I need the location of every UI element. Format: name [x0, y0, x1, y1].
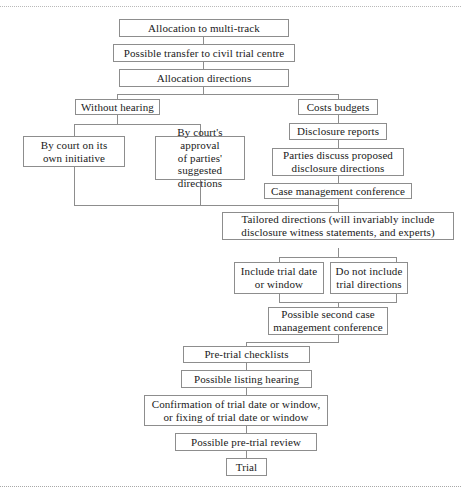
node-do-not-include-trial-directions[interactable]: Do not include trial directions [330, 262, 408, 294]
node-case-management-conference[interactable]: Case management conference [264, 183, 412, 199]
connector-bend-bar [246, 342, 339, 343]
node-possible-pre-trial-review[interactable]: Possible pre-trial review [175, 433, 317, 451]
node-label-line-1: By court's approval [156, 126, 244, 152]
node-by-courts-approval-of-parties-suggested-directions[interactable]: By court's approval of parties' suggeste… [155, 136, 245, 180]
connector-parties-to-cmc [338, 176, 339, 183]
connector-allocation-to-transfer [203, 37, 204, 44]
connector-directions-down [203, 87, 204, 94]
flowchart-page: Allocation to multi-track Possible trans… [0, 0, 461, 494]
node-label: Case management conference [267, 185, 409, 198]
node-label: Possible transfer to civil trial centre [120, 47, 289, 60]
connector-include-down [279, 294, 280, 302]
node-possible-second-case-management-conference[interactable]: Possible second case management conferen… [268, 307, 388, 335]
connector-join-bar [74, 205, 339, 206]
node-label: Allocation to multi-track [144, 22, 264, 35]
node-label: Disclosure reports [293, 125, 383, 138]
node-label-line-2: disclosure witness statements, and exper… [237, 226, 438, 239]
node-label: Possible pre-trial review [187, 436, 305, 449]
node-parties-discuss-proposed-disclosure-directions[interactable]: Parties discuss proposed disclosure dire… [272, 148, 404, 176]
connector-review-to-trial [246, 451, 247, 458]
node-label-line-2: disclosure directions [288, 162, 389, 175]
node-label-line-2: of parties' suggested [156, 152, 244, 178]
connector-checklists-to-listing [246, 363, 247, 370]
connector-confirmation-to-review [246, 426, 247, 433]
node-label: Possible listing hearing [190, 373, 303, 386]
node-tailored-directions[interactable]: Tailored directions (will invariably inc… [222, 212, 454, 240]
node-trial[interactable]: Trial [226, 458, 267, 476]
node-confirmation-of-trial-date-or-window[interactable]: Confirmation of trial date or window, or… [144, 395, 328, 426]
node-label-line-2: trial directions [332, 278, 405, 291]
connector-second-cmc-down [338, 335, 339, 342]
node-label-line-2: management conference [269, 321, 386, 334]
node-label: Without hearing [77, 101, 158, 114]
node-costs-budgets[interactable]: Costs budgets [298, 99, 378, 115]
node-label-line-3: directions [174, 177, 226, 190]
connector-court-initiative-down [74, 167, 75, 205]
connector-transfer-to-directions [203, 62, 204, 69]
node-possible-listing-hearing[interactable]: Possible listing hearing [181, 370, 312, 388]
node-label-line-1: Do not include [332, 265, 407, 278]
node-label-line-1: Confirmation of trial date or window, [148, 398, 325, 411]
node-label-line-1: By court on its [37, 139, 112, 152]
connector-tailored-down [338, 248, 339, 257]
node-disclosure-reports[interactable]: Disclosure reports [289, 123, 387, 140]
connector-join-to-tailored [338, 205, 339, 212]
node-label-line-1: Tailored directions (will invariably inc… [237, 213, 438, 226]
node-label-line-2: own initiative [39, 152, 109, 165]
connector-do-not-include-down [396, 294, 397, 302]
node-label-line-2: or window [251, 278, 307, 291]
connector-split-bar-3 [279, 257, 397, 258]
node-include-trial-date-or-window[interactable]: Include trial date or window [234, 262, 324, 294]
node-by-court-on-its-own-initiative[interactable]: By court on its own initiative [23, 136, 125, 167]
connector-without-hearing-down [117, 115, 118, 124]
top-dotted-rule [0, 6, 461, 7]
node-label: Pre-trial checklists [200, 348, 292, 361]
node-label-line-1: Include trial date [237, 265, 321, 278]
node-possible-transfer-to-civil-trial-centre[interactable]: Possible transfer to civil trial centre [113, 44, 295, 62]
node-label: Trial [232, 461, 262, 474]
connector-to-court-initiative [74, 124, 75, 136]
connector-split-bar-1 [117, 94, 339, 95]
node-label-line-1: Parties discuss proposed [279, 149, 397, 162]
node-allocation-to-multi-track[interactable]: Allocation to multi-track [119, 19, 289, 37]
connector-costs-to-disclosure [338, 115, 339, 123]
node-pre-trial-checklists[interactable]: Pre-trial checklists [183, 346, 310, 363]
node-label: Costs budgets [303, 101, 374, 114]
node-label-line-1: Possible second case [277, 308, 379, 321]
node-label: Allocation directions [153, 72, 256, 85]
node-without-hearing[interactable]: Without hearing [75, 99, 160, 115]
node-label-line-2: or fixing of trial date or window [159, 411, 312, 424]
connector-listing-to-confirmation [246, 388, 247, 395]
bottom-dotted-rule [0, 486, 461, 487]
node-allocation-directions[interactable]: Allocation directions [119, 69, 289, 87]
connector-disclosure-to-parties [338, 140, 339, 148]
